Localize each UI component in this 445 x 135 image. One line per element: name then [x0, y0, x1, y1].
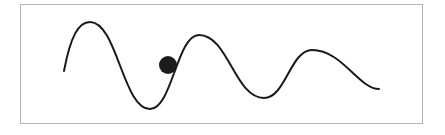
ball: [159, 56, 177, 74]
wave-diagram: [0, 0, 445, 135]
damped-wave-curve: [64, 22, 379, 109]
